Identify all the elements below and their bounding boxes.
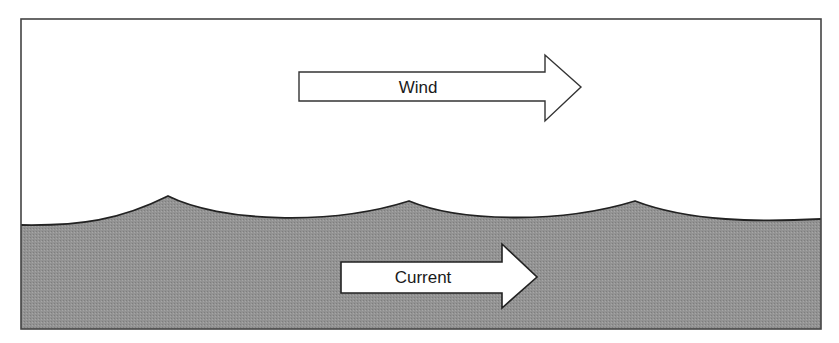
wind-current-diagram: Wind Current — [0, 0, 839, 343]
wind-label: Wind — [399, 78, 438, 97]
current-label: Current — [395, 268, 452, 287]
